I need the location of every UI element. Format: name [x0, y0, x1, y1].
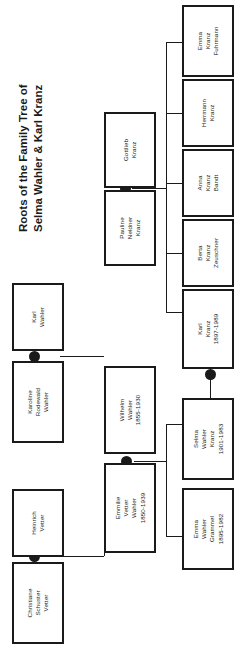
person-label-emmilie-vetter-wahler: Emmilie Vetter Wahler 1850-1939 [114, 493, 147, 524]
connector-kranz-child-herrmann [166, 113, 182, 114]
person-box-heinrich-vetter[interactable]: Heinrich Vetter [12, 489, 64, 557]
person-label-christiane-schuster-vetter: Christiane Schuster Vetter [26, 589, 51, 618]
page-title-line-2: Selma Wahler & Karl Kranz [31, 85, 45, 232]
person-box-emmilie-vetter-wahler[interactable]: Emmilie Vetter Wahler 1850-1939 [104, 463, 156, 553]
person-box-wilhelm-wahler[interactable]: Wilhelm Wahler 1855-1930 [104, 366, 156, 454]
person-box-pauline-neldner-kranz[interactable]: Pauline Neldner Kranz [104, 190, 156, 266]
person-label-anna-kranz-bandt: Anna Kranz Bandt [196, 175, 221, 192]
person-label-berta-kranz-zeuschner: Berta Kranz Zeuschner [196, 238, 221, 268]
person-box-karoline-rodewald-wahler[interactable]: Karoline Rodewald Wahler [12, 361, 64, 443]
connector-wahler-sibling-spine [166, 424, 167, 536]
person-box-selma-wahler-kranz[interactable]: Selma Wahler Kranz 1901-1983 [182, 398, 234, 480]
person-label-selma-wahler-kranz: Selma Wahler Kranz 1901-1983 [192, 424, 225, 455]
person-label-emma-kranz-fuhrmann: Emma Kranz Fuhrmann [196, 26, 221, 55]
person-box-emma-kranz-fuhrmann[interactable]: Emma Kranz Fuhrmann [182, 5, 234, 77]
person-label-karoline-rodewald-wahler: Karoline Rodewald Wahler [26, 388, 51, 416]
person-label-karl-kranz: Karl Kranz 1897-1989 [196, 314, 221, 345]
connector-wahler-child-emma [166, 536, 182, 537]
person-box-christiane-schuster-vetter[interactable]: Christiane Schuster Vetter [12, 562, 64, 644]
person-label-gottlieb-kranz: Gottlieb Kranz [122, 139, 138, 161]
person-label-emma-wahler-grammel: Emma Wahler Grammel 1895-1982 [192, 514, 225, 545]
page-title-line-1: Roots of the Family Tree of [16, 84, 30, 232]
connector-wahler-child-selma [166, 424, 182, 425]
person-label-wilhelm-wahler: Wilhelm Wahler 1855-1930 [118, 395, 143, 426]
person-box-gottlieb-kranz[interactable]: Gottlieb Kranz [104, 112, 156, 188]
connector-vetter-couple-to-emmilie [60, 556, 104, 557]
person-box-herrmann-kranz[interactable]: Herrmann Kranz [182, 79, 234, 147]
connector-kranz-sibling-spine [166, 42, 167, 312]
family-tree-chart: Roots of the Family Tree of Selma Wahler… [0, 0, 239, 650]
person-box-karl-wahler[interactable]: Karl Wahler [12, 283, 64, 351]
person-label-karl-wahler: Karl Wahler [30, 307, 46, 327]
person-label-pauline-neldner-kranz: Pauline Neldner Kranz [118, 217, 143, 239]
connector-kranz-child-anna [166, 183, 182, 184]
person-label-herrmann-kranz: Herrmann Kranz [200, 99, 216, 127]
person-label-heinrich-vetter: Heinrich Vetter [30, 511, 46, 535]
person-box-emma-wahler-grammel[interactable]: Emma Wahler Grammel 1895-1982 [182, 488, 234, 570]
connector-kranz-couple-to-spine [132, 188, 166, 189]
connector-kranz-child-emma [166, 42, 182, 43]
person-box-berta-kranz-zeuschner[interactable]: Berta Kranz Zeuschner [182, 219, 234, 287]
marriage-dot-karl-selma [205, 369, 216, 380]
person-box-anna-kranz-bandt[interactable]: Anna Kranz Bandt [182, 149, 234, 217]
connector-karlwahler-couple-to-wilhelm [60, 356, 104, 357]
connector-kranz-child-berta [166, 253, 182, 254]
connector-wahler-couple-to-spine [134, 461, 166, 462]
connector-kranz-child-karl [166, 312, 182, 313]
person-box-karl-kranz[interactable]: Karl Kranz 1897-1989 [182, 289, 234, 369]
